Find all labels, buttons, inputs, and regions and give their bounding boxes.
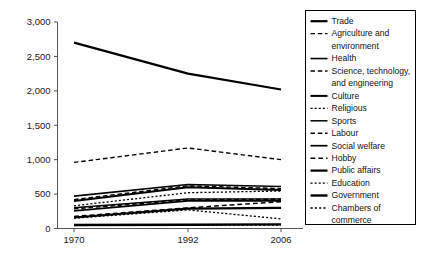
y-tick-label: 1,500 xyxy=(27,120,51,131)
y-tick-label: 2,000 xyxy=(27,85,51,96)
y-tick-label: 1,000 xyxy=(27,154,51,165)
legend-label: Chambers of xyxy=(332,203,382,213)
y-tick-label: 3,000 xyxy=(27,16,51,27)
legend-label: commerce xyxy=(332,215,372,225)
legend-label: Hobby xyxy=(332,153,358,163)
y-tick-label: 2,500 xyxy=(27,51,51,62)
legend-label: Trade xyxy=(332,16,354,26)
legend-label: and engineering xyxy=(332,78,394,88)
legend-label: Labour xyxy=(332,128,359,138)
legend-label: Education xyxy=(332,178,370,188)
x-tick-label: 2006 xyxy=(270,234,291,245)
legend-label: Culture xyxy=(332,91,360,101)
x-tick-label: 1970 xyxy=(63,234,84,245)
legend-label: Science, technology, xyxy=(332,66,411,76)
x-tick-label: 1992 xyxy=(177,234,198,245)
line-chart: 05001,0001,5002,0002,5003,000 1970199220… xyxy=(0,0,423,254)
legend-label: environment xyxy=(332,41,380,51)
y-tick-label: 0 xyxy=(45,223,50,234)
y-tick-label: 500 xyxy=(35,188,51,199)
legend-label: Religious xyxy=(332,103,367,113)
chart-legend: TradeAgriculture andenvironmentHealthSci… xyxy=(306,11,416,226)
legend-label: Sports xyxy=(332,116,357,126)
legend-label: Health xyxy=(332,53,357,63)
legend-label: Agriculture and xyxy=(332,28,390,38)
chart-canvas: 05001,0001,5002,0002,5003,000 1970199220… xyxy=(0,0,423,254)
legend-label: Social welfare xyxy=(332,141,386,151)
legend-label: Government xyxy=(332,190,380,200)
legend-label: Public affairs xyxy=(332,165,381,175)
